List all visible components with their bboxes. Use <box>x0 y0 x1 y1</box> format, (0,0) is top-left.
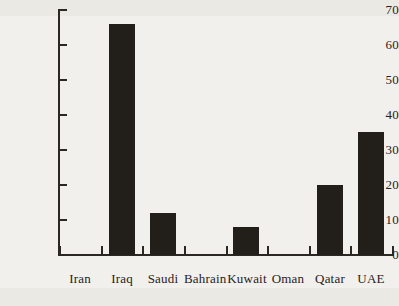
y-axis-tick <box>59 219 67 221</box>
x-axis-tick <box>226 246 228 255</box>
y-axis-tick-label: 50 <box>351 73 399 86</box>
x-axis-category-label: Iran <box>59 272 101 285</box>
y-axis-tick-label: 60 <box>351 38 399 51</box>
x-axis-category-label: Saudi <box>142 272 184 285</box>
bar-chart-figure: 010203040506070 IranIraqSaudiBahrainKuwa… <box>0 0 399 306</box>
scan-texture-band <box>0 288 399 306</box>
bar <box>317 185 343 255</box>
y-axis-tick-label: 40 <box>351 108 399 121</box>
x-axis-category-label: Bahrain <box>184 272 226 285</box>
bar <box>150 213 176 255</box>
x-axis-tick <box>184 246 186 255</box>
x-axis-tick <box>392 246 394 255</box>
x-axis-tick <box>350 246 352 255</box>
bar <box>233 227 259 255</box>
bar <box>358 132 384 255</box>
x-axis-tick <box>101 246 103 255</box>
x-axis-tick <box>142 246 144 255</box>
x-axis-category-label: Iraq <box>101 272 143 285</box>
y-axis-tick <box>59 114 67 116</box>
y-axis-tick <box>59 184 67 186</box>
x-axis-tick <box>59 246 61 255</box>
y-axis-tick <box>59 149 67 151</box>
y-axis-tick <box>59 9 67 11</box>
x-axis-category-label: Kuwait <box>226 272 268 285</box>
x-axis-category-label: Oman <box>267 272 309 285</box>
x-axis-category-label: UAE <box>350 272 392 285</box>
bar <box>109 24 135 255</box>
x-axis-tick <box>309 246 311 255</box>
y-axis-tick <box>59 79 67 81</box>
x-axis-category-label: Qatar <box>309 272 351 285</box>
y-axis-tick <box>59 44 67 46</box>
y-axis-tick-label: 70 <box>351 3 399 16</box>
x-axis-tick <box>267 246 269 255</box>
